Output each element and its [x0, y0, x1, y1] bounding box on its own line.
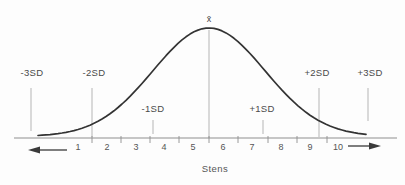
- sten-number-6: 6: [220, 142, 225, 152]
- sten-number-8: 8: [278, 142, 283, 152]
- sd-label-pos3: +3SD: [357, 67, 382, 78]
- stens-distribution-svg: x̄ -3SD -2SD -1SD +1SD +2SD +3SD 1 2 3 4…: [0, 0, 405, 185]
- mean-label: x̄: [207, 14, 212, 24]
- sten-number-2: 2: [104, 142, 109, 152]
- sten-number-3: 3: [133, 142, 138, 152]
- sten-number-4: 4: [161, 142, 166, 152]
- sd-label-neg3: -3SD: [21, 67, 44, 78]
- sd-label-pos2: +2SD: [304, 67, 329, 78]
- stens-axis-title: Stens: [202, 163, 228, 174]
- left-arrow-icon: [28, 147, 67, 154]
- sd-label-pos1: +1SD: [249, 103, 274, 114]
- sten-number-7: 7: [249, 142, 254, 152]
- right-arrow-icon: [348, 143, 381, 150]
- sten-number-9: 9: [307, 142, 312, 152]
- sd-label-neg2: -2SD: [83, 67, 106, 78]
- sten-number-5: 5: [190, 142, 195, 152]
- sten-number-1: 1: [75, 142, 80, 152]
- sd-label-neg1: -1SD: [142, 103, 165, 114]
- bell-curve: [38, 28, 366, 136]
- left-arrow-head: [28, 147, 40, 154]
- figure-normal-curve-stens: x̄ -3SD -2SD -1SD +1SD +2SD +3SD 1 2 3 4…: [0, 0, 405, 185]
- right-arrow-head: [369, 143, 381, 150]
- sten-number-10: 10: [333, 142, 343, 152]
